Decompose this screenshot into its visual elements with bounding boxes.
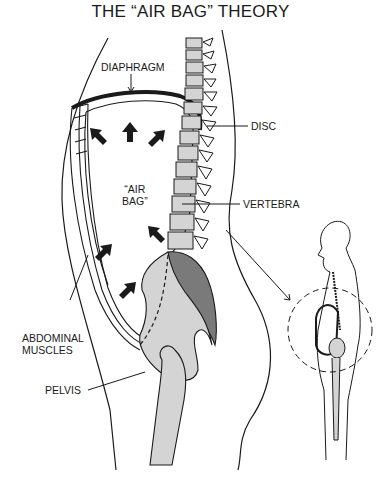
- zoom-circle: [288, 288, 372, 372]
- spine: [168, 38, 217, 249]
- small-figure: [316, 221, 360, 460]
- label-disc: DISC: [251, 120, 276, 132]
- label-vertebra: VERTEBRA: [243, 198, 299, 210]
- label-pelvis: PELVIS: [45, 384, 81, 396]
- label-diaphragm: DIAPHRAGM: [101, 61, 165, 73]
- anatomy-illustration: [0, 0, 381, 477]
- label-abdominal-muscles: ABDOMINAL MUSCLES: [22, 332, 84, 356]
- arrow-up-left-icon: [90, 128, 107, 145]
- label-air-bag: “AIR BAG”: [122, 183, 148, 207]
- arrow-down-left-icon-2: [119, 282, 136, 299]
- arrow-up-right-icon: [148, 130, 165, 147]
- arrow-down-right-icon: [148, 226, 165, 243]
- diaphragm: [72, 92, 200, 130]
- abdominal-muscles: [70, 104, 148, 350]
- arrow-up-icon: [122, 122, 138, 142]
